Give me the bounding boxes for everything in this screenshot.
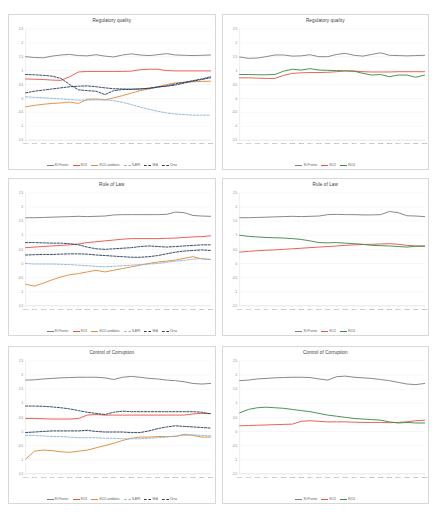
svg-text:2013: 2013 [386,142,392,144]
legend-swatch-icon [47,331,54,332]
legend-item[interactable]: EU Frontier [295,498,317,501]
svg-text:2009: 2009 [138,476,144,478]
series-line [239,235,424,247]
legend-item[interactable]: SEA [144,498,158,501]
series-line [26,236,211,248]
legend-label: China [170,164,177,167]
svg-text:2004: 2004 [307,308,313,310]
svg-text:2009: 2009 [351,308,357,310]
series-line [26,77,211,93]
svg-text:2005: 2005 [102,142,108,144]
legend-item[interactable]: SEA [144,164,158,167]
svg-text:2006: 2006 [325,476,331,478]
svg-text:0.5: 0.5 [232,83,237,87]
chart-svg: 2.521.510.50-0.5-1-1.5199619971998199920… [223,25,429,169]
chart-panel-reg-quality-left[interactable]: Regulatory quality 2.521.510.50-0.5-1-1.… [8,14,216,170]
svg-text:2014: 2014 [395,308,401,310]
svg-text:1998: 1998 [254,308,260,310]
legend-item[interactable]: EU Frontier [295,164,317,167]
svg-text:2013: 2013 [386,308,392,310]
plot-area[interactable]: 2.521.510.50-0.5-1-1.5199619971998199920… [9,25,215,169]
svg-text:2000: 2000 [272,142,278,144]
svg-text:1996: 1996 [237,308,243,310]
svg-text:2011: 2011 [369,476,375,478]
svg-text:0.5: 0.5 [232,416,237,420]
svg-text:2011: 2011 [369,142,375,144]
chart-panel-rule-of-law-left[interactable]: Rule of Law 2.521.510.50-0.5-1-1.5199619… [8,178,216,336]
plot-area[interactable]: 2.521.510.50-0.5-1-1.5199619971998199920… [9,189,215,335]
legend-label: EU Frontier [304,330,318,333]
legend-item[interactable]: China [162,164,177,167]
legend-swatch-icon [144,331,151,332]
svg-text:2015: 2015 [404,142,410,144]
plot-area[interactable]: 2.521.510.50-0.5-1-1.5199619971998199920… [223,357,429,503]
legend-item[interactable]: SEA [144,330,158,333]
legend-item[interactable]: EU Frontier [47,164,69,167]
svg-text:2014: 2014 [395,142,401,144]
svg-text:2001: 2001 [67,476,73,478]
svg-text:2011: 2011 [155,476,161,478]
legend-label: EU11 candidates [99,164,119,167]
svg-text:0.5: 0.5 [19,416,24,420]
legend-item[interactable]: EU11 [321,330,336,333]
series-line [239,69,424,78]
svg-text:2.5: 2.5 [232,359,237,363]
legend-label: N-AFR [132,498,140,501]
chart-panel-rule-of-law-right[interactable]: Rule of Law 2.521.510.50-0.5-1-1.5199619… [222,178,430,336]
plot-area[interactable]: 2.521.510.50-0.5-1-1.5199619971998199920… [223,25,429,169]
svg-text:2005: 2005 [102,476,108,478]
svg-text:2014: 2014 [182,308,188,310]
legend-item[interactable]: N-AFR [124,498,140,501]
legend-swatch-icon [47,165,54,166]
legend-item[interactable]: EU11 [321,164,336,167]
legend-label: EU11 [330,164,337,167]
svg-text:-1: -1 [20,290,23,294]
plot-area[interactable]: 2.521.510.50-0.5-1-1.5199619971998199920… [9,357,215,503]
legend-item[interactable]: N-AFR [124,330,140,333]
legend-item[interactable]: EU11 candidates [91,164,119,167]
svg-text:2010: 2010 [146,476,152,478]
legend-item[interactable]: EU11 [321,498,336,501]
svg-text:2016: 2016 [199,308,205,310]
svg-text:1.5: 1.5 [232,387,237,391]
legend-label: EU11 candidates [99,498,119,501]
chart-panel-corruption-left[interactable]: Control of Corruption 2.521.510.50-0.5-1… [8,346,216,504]
svg-text:2: 2 [22,41,24,45]
legend-item[interactable]: EU Frontier [47,330,69,333]
chart-panel-reg-quality-right[interactable]: Regulatory quality 2.521.510.50-0.5-1-1.… [222,14,430,170]
legend-label: EU Frontier [55,498,69,501]
series-line [239,376,424,384]
legend-item[interactable]: EU16 [340,164,355,167]
svg-text:1997: 1997 [245,308,251,310]
legend-item[interactable]: EU16 [340,330,355,333]
legend-item[interactable]: EU16 [340,498,355,501]
svg-text:2010: 2010 [146,308,152,310]
svg-text:2009: 2009 [351,476,357,478]
legend-item[interactable]: EU11 [73,164,88,167]
legend-item[interactable]: China [162,498,177,501]
svg-text:2004: 2004 [93,142,99,144]
legend-item[interactable]: EU11 [73,330,88,333]
legend-item[interactable]: N-AFR [124,164,140,167]
svg-text:2016: 2016 [199,142,205,144]
chart-title: Control of Corruption [9,350,215,356]
chart-svg: 2.521.510.50-0.5-1-1.5199619971998199920… [223,189,429,335]
legend-item[interactable]: EU11 [73,498,88,501]
chart-panel-corruption-right[interactable]: Control of Corruption 2.521.510.50-0.5-1… [222,346,430,504]
svg-text:2009: 2009 [138,308,144,310]
svg-text:1998: 1998 [254,142,260,144]
legend-item[interactable]: EU Frontier [47,498,69,501]
legend-item[interactable]: EU11 candidates [91,498,119,501]
svg-text:1998: 1998 [41,142,47,144]
legend-item[interactable]: China [162,330,177,333]
svg-text:2000: 2000 [58,142,64,144]
plot-area[interactable]: 2.521.510.50-0.5-1-1.5199619971998199920… [223,189,429,335]
legend-item[interactable]: EU11 candidates [91,330,119,333]
legend-item[interactable]: EU Frontier [295,330,317,333]
svg-text:2006: 2006 [111,308,117,310]
svg-text:2.5: 2.5 [19,27,24,31]
legend-swatch-icon [321,331,328,332]
svg-text:1999: 1999 [49,476,55,478]
svg-text:2013: 2013 [386,476,392,478]
chart-legend: EU FrontierEU11EU16 [223,164,429,167]
